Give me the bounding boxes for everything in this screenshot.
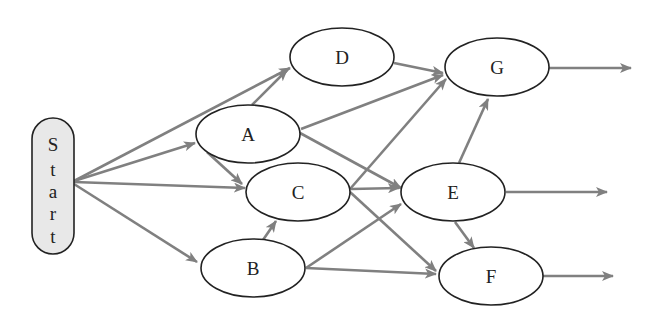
node-d: D — [290, 28, 394, 86]
edge-a-d — [252, 70, 287, 105]
start-letter-4: r — [50, 203, 57, 224]
node-a-label: A — [241, 124, 255, 145]
edge-d-g — [394, 63, 443, 73]
node-g-label: G — [490, 57, 504, 78]
node-d-label: D — [335, 47, 349, 68]
node-f: F — [439, 247, 543, 305]
node-f-label: F — [486, 266, 497, 287]
node-e-label: E — [447, 182, 459, 203]
edge-b-c — [263, 221, 276, 240]
edges — [74, 63, 631, 276]
node-b-label: B — [247, 258, 260, 279]
edge-b-f — [306, 268, 436, 274]
start-node: S t a r t — [32, 118, 74, 254]
start-letter-5: t — [50, 226, 56, 247]
flow-diagram: S t a r t D A C B G E F — [0, 0, 664, 330]
edge-start-b — [74, 184, 197, 262]
start-letter-3: a — [49, 181, 58, 202]
node-e: E — [401, 163, 505, 221]
start-letter-2: t — [50, 159, 56, 180]
start-letter-1: S — [48, 134, 59, 155]
node-c: C — [246, 163, 350, 221]
node-c-label: C — [292, 182, 305, 203]
edge-c-e — [351, 188, 399, 189]
edge-start-c — [74, 182, 245, 188]
node-a: A — [196, 105, 300, 163]
edge-e-f — [455, 222, 474, 248]
node-g: G — [445, 38, 549, 96]
edge-e-g — [459, 99, 488, 163]
node-b: B — [201, 239, 305, 297]
